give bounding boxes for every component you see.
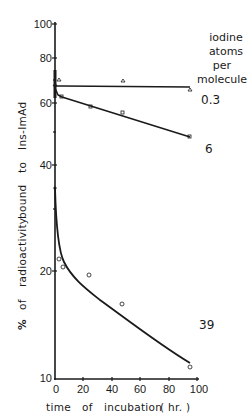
x-tick-80: 80: [163, 383, 175, 395]
x-tick-0: 0: [53, 383, 59, 395]
series-label-6: 6: [205, 142, 213, 156]
y-axis-title: % of radioactivity bound to Ins-ImAd: [16, 102, 28, 330]
x-tick-60: 60: [134, 383, 146, 395]
y-tick-10: 10: [40, 372, 52, 384]
svg-text:bound: bound: [16, 184, 28, 219]
series-6: [55, 88, 191, 138]
x-axis-title-unit: ( hr. ): [160, 401, 190, 413]
svg-text:%: %: [16, 319, 28, 330]
x-axis-title-time: time: [46, 401, 71, 413]
series-label-39: 39: [199, 318, 214, 332]
x-axis-title-of: of: [82, 401, 93, 413]
legend-title-line4: molecule: [197, 73, 247, 86]
x-tick-40: 40: [106, 383, 118, 395]
svg-text:Ins-ImAd: Ins-ImAd: [16, 102, 28, 150]
chart-figure: 100 80 60 40 20 10 0 20 40 60 80 100 tim…: [0, 0, 250, 419]
y-tick-40: 40: [40, 159, 52, 171]
legend-title-line1: iodine: [209, 31, 243, 44]
x-tick-20: 20: [77, 383, 89, 395]
legend-title-line2: atoms: [209, 45, 243, 58]
series-39: [53, 186, 192, 369]
y-tick-80: 80: [40, 52, 52, 64]
y-tick-60: 60: [40, 97, 52, 109]
x-tick-100: 100: [190, 383, 208, 395]
series-label-0.3: 0.3: [201, 93, 220, 107]
legend-title-line3: per: [213, 59, 232, 72]
svg-text:to: to: [16, 162, 28, 173]
svg-text:of: of: [16, 299, 28, 310]
y-tick-20: 20: [40, 265, 52, 277]
x-axis-title-incubation: incubation: [104, 401, 162, 413]
svg-text:radioactivity: radioactivity: [16, 218, 28, 287]
y-tick-100: 100: [34, 18, 52, 30]
series-0.3: [53, 78, 192, 91]
